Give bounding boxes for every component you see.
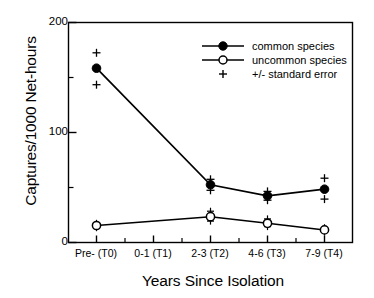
legend-label-uncommon-species: uncommon species <box>252 54 347 66</box>
x-axis-title: Years Since Isolation <box>68 272 358 290</box>
y-tick-label-200: 200 <box>34 15 68 27</box>
y-axis-title: Captures/1000 Net-hours <box>22 6 40 236</box>
x-axis-major-ticks <box>97 236 325 243</box>
legend-label-standard-error: +/- standard error <box>252 68 337 80</box>
chart-figure: Captures/1000 Net-hours Years Since Isol… <box>0 0 374 298</box>
legend-marker-uncommon-species <box>219 56 227 64</box>
y-tick-label-100: 100 <box>34 125 68 137</box>
legend-glyphs <box>202 42 244 78</box>
legend-marker-standard-error <box>219 70 227 78</box>
y-tick-label-0: 0 <box>34 235 68 247</box>
legend-marker-common-species <box>219 42 227 50</box>
legend-label-common-species: common species <box>252 40 335 52</box>
x-tick-label-t4: 7-9 (T4) <box>289 247 359 259</box>
y-axis-major-ticks <box>69 23 77 243</box>
